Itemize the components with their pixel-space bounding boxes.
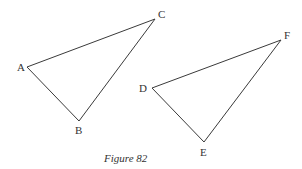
triangle-abc-outline	[27, 19, 155, 121]
vertex-label-f: F	[284, 29, 290, 41]
figure-caption: Figure 82	[103, 152, 148, 164]
vertex-label-d: D	[139, 82, 147, 94]
geometry-figure: A B C D E F Figure 82	[0, 0, 302, 169]
vertex-label-a: A	[17, 61, 25, 73]
vertex-label-b: B	[75, 124, 82, 136]
triangle-def: D E F	[139, 29, 290, 158]
triangle-abc: A B C	[17, 8, 165, 136]
vertex-label-e: E	[200, 146, 207, 158]
triangle-def-outline	[152, 40, 281, 142]
vertex-label-c: C	[158, 8, 165, 20]
